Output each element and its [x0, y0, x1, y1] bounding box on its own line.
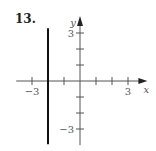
x-axis-label: x	[144, 84, 150, 95]
x-tick-label: −3	[25, 86, 40, 97]
y-tick-label: 3	[68, 28, 74, 39]
y-axis-arrow-icon	[77, 16, 83, 26]
coordinate-graph: −333−3xy	[0, 0, 156, 151]
y-axis-label: y	[69, 17, 76, 28]
x-tick-label: 3	[125, 86, 131, 97]
y-tick-label: −3	[59, 124, 74, 135]
